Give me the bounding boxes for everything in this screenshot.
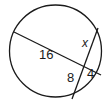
label-segment-x: x xyxy=(81,36,89,50)
chord-diagram: 16 x 8 4 xyxy=(0,0,111,103)
circle xyxy=(10,5,102,97)
label-segment-16: 16 xyxy=(39,47,53,62)
label-segment-4: 4 xyxy=(87,66,94,81)
label-segment-8: 8 xyxy=(67,70,74,85)
